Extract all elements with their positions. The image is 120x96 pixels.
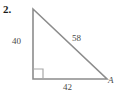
hypotenuse-length-label: 58 [72, 34, 81, 43]
right-triangle-shape [33, 9, 107, 79]
right-angle-marker-icon [33, 69, 43, 79]
geometry-figure: 2. 40 58 42 A [0, 0, 120, 96]
vertex-a-label: A [108, 76, 114, 85]
vertical-leg-length-label: 40 [12, 37, 21, 46]
problem-number-label: 2. [3, 4, 11, 15]
triangle-diagram [0, 0, 120, 96]
horizontal-leg-length-label: 42 [63, 83, 72, 92]
